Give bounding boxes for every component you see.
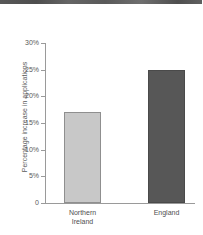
x-label-line: Northern <box>43 208 123 217</box>
bar-england <box>148 70 185 203</box>
y-tick-0 <box>41 203 46 204</box>
y-tick-label-0: 0 <box>35 199 39 206</box>
x-label-northern-ireland: NorthernIreland <box>43 208 123 226</box>
x-axis-line <box>45 203 195 204</box>
y-tick-label-20: 20% <box>25 92 39 99</box>
y-tick-10 <box>41 150 46 151</box>
bar-chart: Percentage increase in applications 05%1… <box>0 0 202 235</box>
x-label-england: England <box>127 208 203 217</box>
y-tick-30 <box>41 43 46 44</box>
y-tick-20 <box>41 96 46 97</box>
y-tick-label-5: 5% <box>29 172 39 179</box>
x-label-line: Ireland <box>43 217 123 226</box>
y-tick-label-25: 25% <box>25 66 39 73</box>
y-tick-5 <box>41 176 46 177</box>
y-tick-label-30: 30% <box>25 39 39 46</box>
y-tick-25 <box>41 70 46 71</box>
bar-northern-ireland <box>64 112 101 203</box>
x-label-line: England <box>127 208 203 217</box>
y-tick-label-10: 10% <box>25 146 39 153</box>
y-axis-title: Percentage increase in applications <box>21 32 29 202</box>
y-tick-15 <box>41 123 46 124</box>
y-tick-label-15: 15% <box>25 119 39 126</box>
